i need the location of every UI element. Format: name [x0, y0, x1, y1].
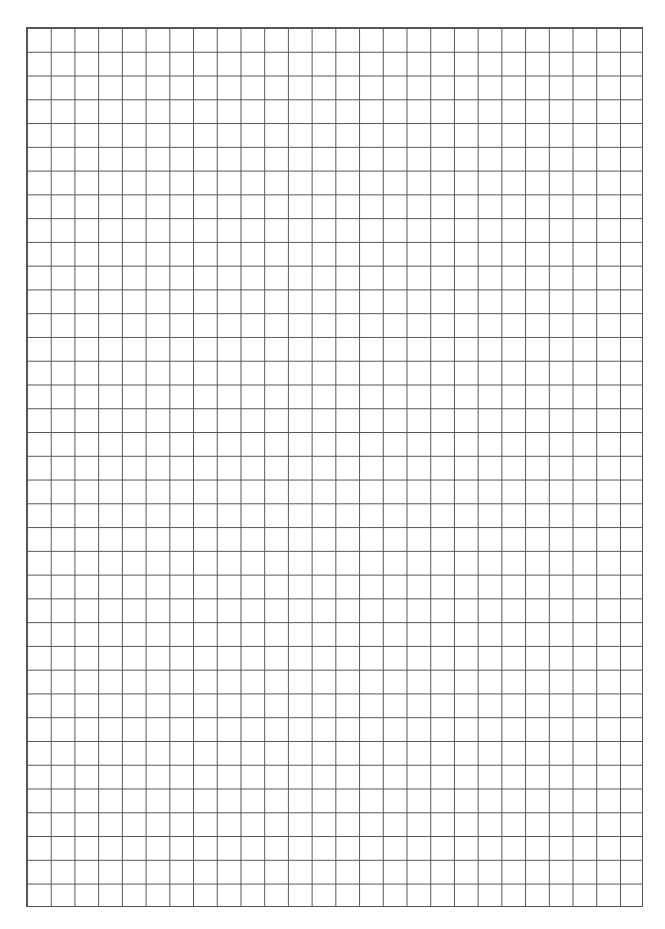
grid-paper [26, 27, 643, 907]
